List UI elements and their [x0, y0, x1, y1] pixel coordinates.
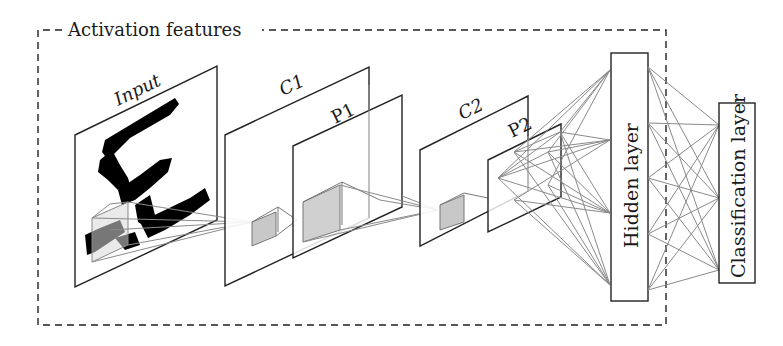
input-plane: Input [75, 66, 217, 287]
hidden-layer-label: Hidden layer [620, 122, 642, 248]
c1-label: C1 [276, 70, 308, 100]
cnn-architecture-diagram: Activation features Input [0, 0, 783, 346]
hidden-to-classification-connections [648, 67, 719, 290]
classification-layer: Classification layer [719, 93, 755, 283]
frame-title: Activation features [67, 19, 241, 40]
hidden-layer: Hidden layer [611, 53, 648, 301]
classification-layer-label: Classification layer [727, 93, 749, 278]
